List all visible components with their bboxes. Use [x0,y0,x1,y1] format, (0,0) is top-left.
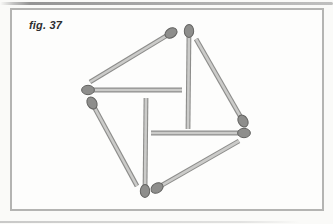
scanned-figure-page: fig. 37 [0,0,333,224]
matchstick-outer-top-right-side [196,39,250,129]
matchstick-svg [0,0,333,224]
matchstick-outer-bottom-right-side [149,141,239,195]
match-stick [90,35,168,82]
match-stick [196,39,241,118]
match-stick [160,141,239,186]
matchstick-inner-horizontal-left [82,85,182,94]
matchstick-outer-top-left-side [90,26,179,82]
match-head [82,85,95,94]
match-stick [188,34,189,129]
match-head [140,185,150,198]
match-stick [94,106,137,186]
matchstick-outer-bottom-left-side [85,95,137,186]
match-head [184,25,194,38]
match-head [238,128,251,137]
matchstick-inner-vertical-top [184,25,194,129]
match-stick [145,98,146,188]
matchstick-inner-horizontal-right [151,128,250,137]
matchstick-inner-vertical-bottom [140,98,150,197]
